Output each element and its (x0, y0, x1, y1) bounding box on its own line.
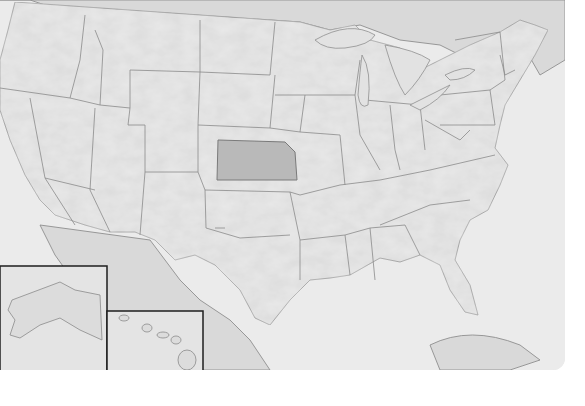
highlighted-state-kansas (217, 140, 297, 180)
us-map (0, 0, 565, 370)
hawaii-inset (107, 311, 203, 370)
map-canvas (0, 0, 565, 370)
alaska-inset (0, 266, 107, 370)
